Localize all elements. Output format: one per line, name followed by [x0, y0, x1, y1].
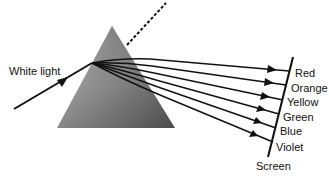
arrowhead-icon	[264, 78, 274, 86]
arrowhead-icon	[57, 77, 68, 87]
prism-dispersion-diagram: White light Screen Red Orange Yellow Gre…	[0, 0, 329, 178]
white-light-label: White light	[9, 65, 60, 77]
spectrum-label-yellow: Yellow	[287, 96, 318, 108]
screen-label: Screen	[256, 160, 291, 172]
arrowhead-icon	[267, 65, 277, 73]
arrowhead-icon	[260, 92, 270, 100]
spectrum-label-violet: Violet	[276, 141, 303, 153]
spectrum-label-green: Green	[283, 111, 314, 123]
spectrum-label-orange: Orange	[291, 82, 328, 94]
spectrum-label-red: Red	[295, 67, 315, 79]
arrowhead-icon	[256, 105, 266, 112]
prism	[57, 26, 175, 128]
spectrum-label-blue: Blue	[280, 125, 302, 137]
arrowhead-icon	[249, 130, 258, 137]
reflected-ray-dashed	[127, 3, 166, 45]
